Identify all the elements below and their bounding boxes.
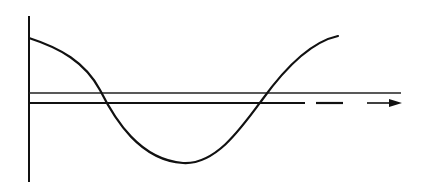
waveform-diagram bbox=[0, 0, 426, 191]
background bbox=[0, 0, 426, 191]
diagram-canvas bbox=[0, 0, 426, 191]
